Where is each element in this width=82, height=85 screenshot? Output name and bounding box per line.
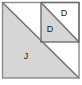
dissected-square-diagram: J D D [0,0,82,85]
label-d-inner: D [47,24,54,34]
label-d-outer: D [61,8,68,18]
figure-container: J D D [0,0,82,85]
label-j: J [24,51,29,61]
